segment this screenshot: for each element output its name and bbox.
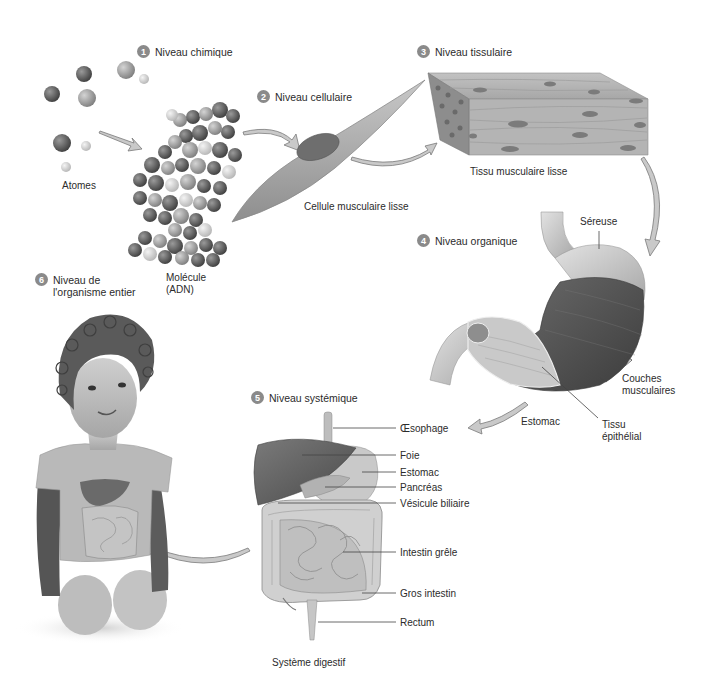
level-5-text: Niveau systémique xyxy=(269,392,358,404)
level-3-badge: 3 xyxy=(417,45,430,58)
level-2-text: Niveau cellulaire xyxy=(275,91,352,103)
level-6-text-line1: Niveau de xyxy=(53,274,136,286)
epithelial-tissue-label: Tissu épithélial xyxy=(602,419,641,443)
arrow-molecule-to-cell xyxy=(243,129,300,151)
molecule-caption: Molécule (ADN) xyxy=(166,272,206,296)
atoms-caption: Atomes xyxy=(62,180,96,192)
rectum-label: Rectum xyxy=(400,617,434,629)
serosa-label: Séreuse xyxy=(580,216,617,228)
level-3-label: 3 Niveau tissulaire xyxy=(417,46,512,58)
arrow-atoms-to-molecule xyxy=(99,131,142,151)
organization-levels-diagram: 1 Niveau chimique 2 Niveau cellulaire 3 … xyxy=(0,0,709,697)
muscle-layers-line2: musculaires xyxy=(622,385,675,397)
tissue-caption: Tissu musculaire lisse xyxy=(470,166,567,178)
atoms-illustration xyxy=(44,61,149,172)
level-2-badge: 2 xyxy=(257,90,270,103)
muscle-layers-line1: Couches xyxy=(622,373,675,385)
arrow-organ-to-system xyxy=(468,402,528,434)
system-caption: Système digestif xyxy=(272,657,345,669)
esophagus-label: Œsophage xyxy=(400,423,448,435)
level-4-label: 4 Niveau organique xyxy=(417,235,517,247)
small-intestine-label: Intestin grêle xyxy=(400,547,457,559)
stomach-system-label: Estomac xyxy=(400,467,439,479)
digestive-system-illustration xyxy=(254,412,382,640)
epithelial-line2: épithélial xyxy=(602,431,641,443)
level-2-label: 2 Niveau cellulaire xyxy=(257,91,352,103)
level-5-badge: 5 xyxy=(251,391,264,404)
level-4-text: Niveau organique xyxy=(435,235,517,247)
level-1-text: Niveau chimique xyxy=(155,46,233,58)
stomach-label: Estomac xyxy=(521,416,560,428)
large-intestine-label: Gros intestin xyxy=(400,588,456,600)
level-1-badge: 1 xyxy=(137,45,150,58)
level-5-label: 5 Niveau systémique xyxy=(251,392,358,404)
level-6-text-line2: l'organisme entier xyxy=(53,286,136,298)
arrow-cell-to-tissue xyxy=(351,143,437,166)
pancreas-label: Pancréas xyxy=(400,482,442,494)
liver-label: Foie xyxy=(400,450,419,462)
level-3-text: Niveau tissulaire xyxy=(435,46,512,58)
level-6-label: 6 Niveau de l'organisme entier xyxy=(35,274,136,298)
molecule-caption-line1: Molécule xyxy=(166,272,206,284)
level-6-badge: 6 xyxy=(35,273,48,286)
dna-molecule-illustration xyxy=(128,102,242,267)
smooth-muscle-tissue-illustration xyxy=(428,73,648,155)
gallbladder-label: Vésicule biliaire xyxy=(400,498,469,510)
level-6-text: Niveau de l'organisme entier xyxy=(53,274,136,298)
muscle-layers-label: Couches musculaires xyxy=(622,373,675,397)
arrow-tissue-to-organ xyxy=(641,157,660,256)
cell-caption: Cellule musculaire lisse xyxy=(304,201,408,213)
level-1-label: 1 Niveau chimique xyxy=(137,46,233,58)
diagram-artwork xyxy=(0,0,709,697)
molecule-caption-line2: (ADN) xyxy=(166,284,206,296)
child-organism-illustration xyxy=(15,314,185,644)
epithelial-line1: Tissu xyxy=(602,419,641,431)
level-4-badge: 4 xyxy=(417,234,430,247)
